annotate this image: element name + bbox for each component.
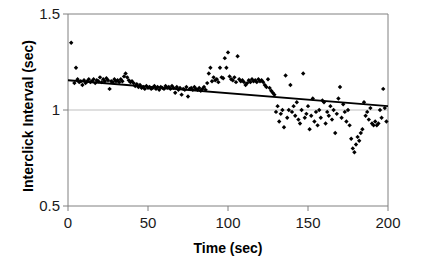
data-point: [331, 108, 335, 112]
data-point: [303, 115, 307, 119]
data-point: [107, 87, 111, 91]
data-point: [296, 117, 300, 121]
data-point: [338, 85, 342, 89]
data-point: [283, 73, 287, 77]
trendline-group: [68, 80, 388, 106]
data-point: [208, 66, 212, 70]
data-point: [367, 117, 371, 121]
data-point: [288, 83, 292, 87]
data-point: [69, 41, 73, 45]
data-point: [285, 115, 289, 119]
data-point: [293, 114, 297, 118]
data-point: [226, 50, 230, 54]
data-point: [359, 131, 363, 135]
data-point: [351, 146, 355, 150]
data-point: [173, 91, 177, 95]
chart-container: 1.510.5 050100150200 Interclick Interval…: [0, 0, 421, 268]
data-point: [378, 108, 382, 112]
y-axis-title: Interclick Interval (sec): [20, 26, 36, 206]
data-point: [379, 115, 383, 119]
data-points-group: [69, 41, 389, 155]
data-point: [315, 123, 319, 127]
data-point: [328, 104, 332, 108]
data-point: [330, 117, 334, 121]
data-point: [205, 81, 209, 85]
data-point: [354, 142, 358, 146]
x-tick-label: 150: [283, 215, 333, 230]
x-tick-label: 50: [123, 215, 173, 230]
x-tick-label: 0: [43, 215, 93, 230]
data-point: [309, 114, 313, 118]
data-point: [266, 77, 270, 81]
data-point: [224, 66, 228, 70]
data-point: [336, 96, 340, 100]
data-point: [223, 56, 227, 60]
data-point: [235, 54, 239, 58]
data-point: [381, 87, 385, 91]
data-point: [352, 150, 356, 154]
data-point: [347, 123, 351, 127]
data-point: [323, 121, 327, 125]
data-point: [339, 115, 343, 119]
data-point: [355, 135, 359, 139]
trendline: [68, 80, 388, 106]
data-point: [307, 127, 311, 131]
data-point: [335, 112, 339, 116]
data-point: [333, 131, 337, 135]
x-tick-label: 200: [363, 215, 413, 230]
data-point: [280, 108, 284, 112]
data-point: [363, 114, 367, 118]
data-point: [207, 71, 211, 75]
x-tick-label: 100: [203, 215, 253, 230]
data-point: [306, 104, 310, 108]
data-point: [291, 104, 295, 108]
data-point: [210, 79, 214, 83]
data-point: [279, 112, 283, 116]
data-point: [298, 121, 302, 125]
data-point: [319, 115, 323, 119]
data-point: [327, 114, 331, 118]
data-point: [282, 125, 286, 129]
data-point: [277, 119, 281, 123]
data-point: [344, 119, 348, 123]
data-point: [357, 139, 361, 143]
y-tick-label: 1.5: [8, 6, 60, 21]
x-axis-title: Time (sec): [68, 240, 388, 256]
data-point: [275, 104, 279, 108]
data-point: [312, 119, 316, 123]
data-point: [299, 108, 303, 112]
data-point: [74, 66, 78, 70]
data-point: [304, 112, 308, 116]
data-point: [360, 127, 364, 131]
data-point: [301, 71, 305, 75]
axis-ticks-group: [63, 14, 388, 211]
data-point: [186, 94, 190, 98]
data-point: [218, 66, 222, 70]
data-point: [349, 137, 353, 141]
data-point: [295, 100, 299, 104]
data-point: [179, 92, 183, 96]
